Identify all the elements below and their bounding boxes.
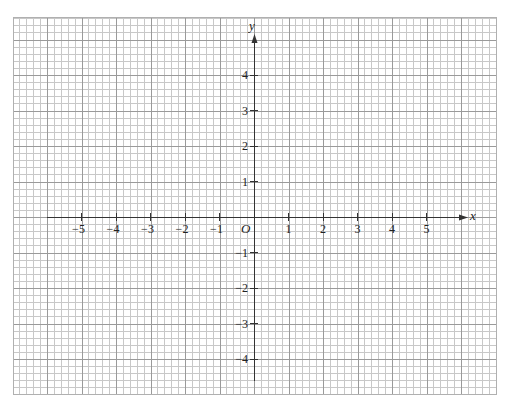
x-tick-label: −4	[107, 222, 120, 236]
x-tick-label: −5	[72, 222, 85, 236]
y-tick-label: −4	[235, 352, 248, 366]
x-tick-label: 2	[320, 222, 326, 236]
x-tick-label: 3	[355, 222, 361, 236]
y-axis	[252, 34, 258, 381]
y-tick-label: −3	[235, 317, 248, 331]
y-tick-label: 3	[242, 104, 248, 118]
x-tick-label: 1	[286, 222, 292, 236]
x-axis-label: x	[469, 208, 476, 223]
x-axis-arrow-icon	[459, 215, 468, 221]
x-axis	[47, 215, 468, 221]
y-axis-arrow-icon	[252, 34, 258, 43]
x-tick-label: −1	[210, 222, 223, 236]
x-tick-label: 4	[389, 222, 395, 236]
x-tick-label: 5	[424, 222, 430, 236]
y-tick-label: 4	[242, 68, 248, 82]
y-tick-label: 2	[242, 139, 248, 153]
coordinate-grid: −5−4−3−2−112345 4321−1−2−3−4 x y O	[0, 0, 507, 410]
y-tick-label: −1	[235, 246, 248, 260]
y-tick-label: 1	[242, 175, 248, 189]
y-axis-label: y	[247, 18, 255, 33]
x-tick-label: −3	[141, 222, 154, 236]
origin-label: O	[241, 221, 251, 236]
x-tick-label: −2	[176, 222, 189, 236]
y-tick-label: −2	[235, 281, 248, 295]
